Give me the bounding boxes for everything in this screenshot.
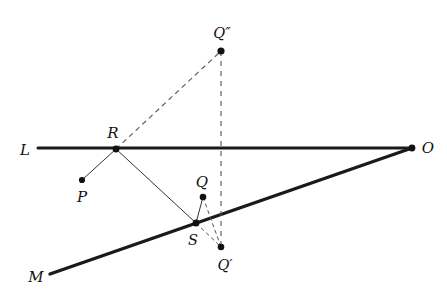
label-P: P: [77, 190, 87, 205]
point-Q: [200, 194, 207, 201]
label-Q-prime: Q′: [217, 258, 232, 273]
point-P: [79, 177, 85, 183]
point-S: [193, 220, 200, 227]
point-Q-double-prime: [217, 47, 224, 54]
geometry-diagram: [0, 0, 447, 298]
point-Q-prime: [218, 244, 225, 251]
label-S: S: [188, 233, 198, 248]
point-O: [409, 145, 416, 152]
label-Q: Q: [196, 175, 208, 190]
label-M: M: [28, 270, 43, 285]
label-O: O: [422, 141, 434, 156]
label-L: L: [20, 143, 30, 158]
label-R: R: [107, 126, 118, 141]
point-R: [113, 146, 120, 153]
label-Q-double-prime: Q″: [213, 26, 230, 41]
